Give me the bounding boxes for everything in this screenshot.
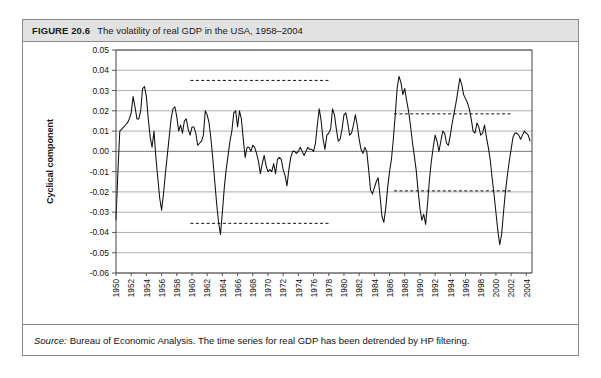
y-axis-tick-label: 0.04 bbox=[92, 65, 109, 75]
x-axis-tick-label: 1990 bbox=[416, 279, 425, 298]
y-axis-tick-label: 0.01 bbox=[92, 126, 109, 136]
x-axis-tick-label: 1964 bbox=[219, 279, 228, 298]
x-axis-tick-label: 1960 bbox=[188, 279, 197, 298]
reference-lines-group bbox=[190, 80, 512, 223]
cyclical-component-line bbox=[116, 76, 530, 244]
x-axis-tick-label: 1982 bbox=[355, 279, 364, 298]
figure-source-note: Source: Bureau of Economic Analysis. The… bbox=[23, 324, 578, 355]
figure-number-label: FIGURE 20.6 bbox=[32, 25, 90, 36]
x-axis-tick-label: 1980 bbox=[340, 279, 349, 298]
x-axis-tick-label: 1974 bbox=[295, 279, 304, 298]
x-axis-tick-label: 2002 bbox=[507, 279, 516, 298]
x-axis-tick-label: 1976 bbox=[310, 279, 319, 298]
x-axis-tick-label: 1956 bbox=[158, 279, 167, 298]
source-description: Bureau of Economic Analysis. The time se… bbox=[70, 335, 470, 346]
x-axis-tick-label: 1988 bbox=[401, 279, 410, 298]
volatility-line-chart: 0.050.040.030.020.010.00-0.01-0.02-0.03-… bbox=[23, 42, 578, 324]
x-axis-tick-label: 2004 bbox=[523, 279, 532, 298]
x-axis-tick-label: 2000 bbox=[492, 279, 501, 298]
x-axis-tick-label: 1962 bbox=[203, 279, 212, 298]
y-axis-tick-label: -0.06 bbox=[90, 268, 110, 278]
x-axis-tick-label: 1966 bbox=[234, 279, 243, 298]
y-axis-tick-label: -0.04 bbox=[90, 227, 110, 237]
x-axis-tick-label: 1996 bbox=[462, 279, 471, 298]
figure-header: FIGURE 20.6 The volatility of real GDP i… bbox=[23, 20, 578, 42]
x-axis-tick-label: 1954 bbox=[143, 279, 152, 298]
x-axis-tick-label: 1952 bbox=[127, 279, 136, 298]
y-axis-title: Cyclical component bbox=[45, 119, 55, 204]
figure-title: The volatility of real GDP in the USA, 1… bbox=[97, 25, 303, 36]
x-axis-tick-label: 1972 bbox=[279, 279, 288, 298]
x-axis-tick-label: 1970 bbox=[264, 279, 273, 298]
plot-frame bbox=[116, 50, 532, 273]
x-axis-tick-label: 1998 bbox=[477, 279, 486, 298]
x-axis-tick-label: 1984 bbox=[371, 279, 380, 298]
x-axis-tick-label: 1992 bbox=[431, 279, 440, 298]
y-axis-tick-label: 0.02 bbox=[92, 106, 109, 116]
x-axis-tick-label: 1994 bbox=[447, 279, 456, 298]
gridlines-group bbox=[116, 50, 532, 273]
y-axis-ticks-group: 0.050.040.030.020.010.00-0.01-0.02-0.03-… bbox=[90, 45, 116, 278]
y-axis-tick-label: -0.02 bbox=[90, 187, 110, 197]
y-axis-tick-label: 0.05 bbox=[92, 45, 109, 55]
figure-container: FIGURE 20.6 The volatility of real GDP i… bbox=[22, 19, 579, 356]
source-label: Source: bbox=[34, 335, 67, 346]
y-axis-tick-label: -0.01 bbox=[90, 167, 110, 177]
y-axis-tick-label: 0.00 bbox=[92, 146, 109, 156]
x-axis-tick-label: 1978 bbox=[325, 279, 334, 298]
y-axis-tick-label: -0.03 bbox=[90, 207, 110, 217]
x-axis-ticks-group: 1950195219541956195819601962196419661968… bbox=[112, 273, 531, 297]
y-axis-tick-label: 0.03 bbox=[92, 86, 109, 96]
x-axis-tick-label: 1950 bbox=[112, 279, 121, 298]
y-axis-tick-label: -0.05 bbox=[90, 248, 110, 258]
chart-area: 0.050.040.030.020.010.00-0.01-0.02-0.03-… bbox=[23, 42, 578, 324]
x-axis-tick-label: 1986 bbox=[386, 279, 395, 298]
x-axis-tick-label: 1968 bbox=[249, 279, 258, 298]
x-axis-tick-label: 1958 bbox=[173, 279, 182, 298]
